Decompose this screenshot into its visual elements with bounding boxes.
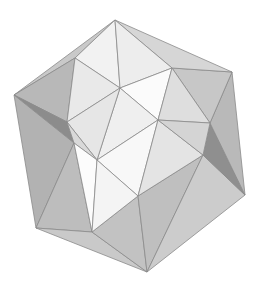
polyhedron-render (0, 0, 261, 292)
render-canvas (0, 0, 261, 292)
